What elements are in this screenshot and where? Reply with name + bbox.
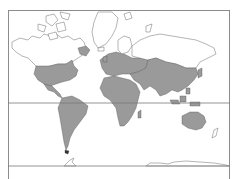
novaya-zemlya	[146, 24, 152, 32]
world-map-svg	[0, 0, 234, 179]
australia	[182, 112, 206, 130]
world-map-figure	[0, 0, 234, 179]
africa	[100, 76, 140, 126]
greenland	[92, 12, 118, 48]
japan	[198, 68, 202, 78]
canada-alaska-landmass	[12, 34, 86, 68]
arctic-island	[60, 12, 70, 20]
borneo	[180, 96, 186, 102]
central-america	[44, 84, 62, 98]
tierra-del-fuego	[65, 150, 69, 154]
arctic-island	[38, 24, 46, 32]
antarctica	[146, 161, 229, 166]
new-zealand	[212, 128, 218, 138]
arctic-island	[56, 22, 66, 32]
south-america	[58, 96, 88, 150]
svalbard	[124, 12, 132, 20]
scandinavia-north	[118, 36, 132, 54]
british-isles	[103, 56, 107, 62]
philippines	[186, 88, 190, 94]
antarctica-peninsula	[64, 158, 76, 166]
iceland	[98, 47, 104, 51]
madagascar	[138, 110, 141, 118]
